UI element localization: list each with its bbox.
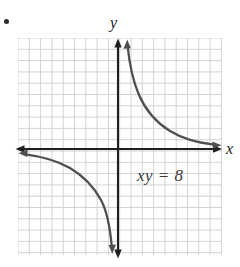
y-axis-label: y xyxy=(110,15,117,31)
hyperbola-branch-lower-left xyxy=(19,150,117,254)
x-axis-label: x xyxy=(226,141,233,157)
graph-figure: y x xy = 8 xyxy=(0,0,240,267)
grid-lines xyxy=(18,38,222,255)
coordinate-plane xyxy=(0,0,240,267)
equation-annotation: xy = 8 xyxy=(137,166,184,186)
